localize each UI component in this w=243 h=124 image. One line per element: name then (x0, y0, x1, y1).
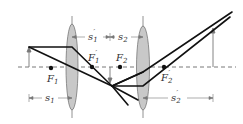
label-f1-prime: F1′ (87, 49, 99, 65)
label-f1: F1 (46, 73, 58, 86)
focal-point-f2 (118, 65, 122, 69)
label-s2: s2 (118, 31, 128, 44)
light-rays (29, 12, 232, 105)
label-f2-prime: F2′ (160, 69, 173, 85)
label-s1-prime: s1′ (88, 28, 98, 44)
focal-point-f1 (49, 66, 53, 70)
focal-point-f2-prime (162, 65, 166, 69)
intermediate-image-arrow (108, 67, 112, 83)
focal-point-f1-prime (90, 65, 94, 69)
two-lens-diagram: F1 F1′ F2 F2′ s1 s1′ s2 s2′ (0, 0, 243, 124)
lens-2 (137, 16, 150, 118)
label-f2: F2 (115, 52, 128, 65)
final-image-arrow (211, 28, 215, 67)
label-s1: s1 (45, 92, 55, 105)
label-s2-prime: s2′ (171, 89, 181, 105)
object-arrow (27, 47, 31, 67)
